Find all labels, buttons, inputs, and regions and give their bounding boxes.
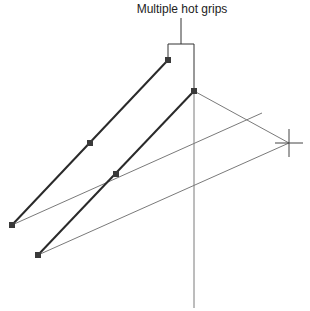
rubberband-line	[12, 113, 262, 225]
drawing-canvas[interactable]	[0, 0, 310, 311]
rubberband-line	[194, 91, 289, 143]
hot-grip[interactable]	[191, 88, 197, 94]
grips	[9, 57, 197, 258]
endpoint-grip[interactable]	[35, 252, 41, 258]
endpoint-grip[interactable]	[9, 222, 15, 228]
rubberband-line	[38, 143, 289, 255]
crosshair-cursor-icon	[275, 129, 303, 157]
rubberband-lines	[12, 91, 289, 308]
hot-grip[interactable]	[165, 57, 171, 63]
callout-bracket	[168, 18, 194, 91]
midpoint-grip[interactable]	[87, 140, 93, 146]
midpoint-grip[interactable]	[113, 171, 119, 177]
